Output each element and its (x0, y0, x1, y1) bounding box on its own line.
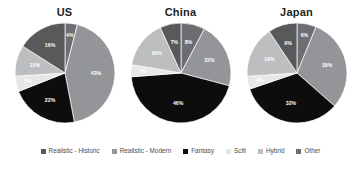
legend-label: Scifi (234, 147, 246, 155)
pie-slice-value-label: 9% (284, 40, 292, 46)
pie-canvas-japan: 6%29%32%4%16%9% (245, 21, 349, 125)
pie-slice-value-label: 16% (151, 50, 162, 56)
legend-swatch-icon (112, 149, 117, 154)
pie-svg-china: 8%22%46%4%16%7% (129, 21, 233, 125)
pie-slice-value-label: 22% (204, 57, 215, 63)
legend-swatch-icon (183, 149, 188, 154)
pie-chart-us: US 4%43%22%5%10%16% (8, 0, 121, 125)
legend-label: Fantasy (191, 147, 214, 155)
legend-swatch-icon (296, 149, 301, 154)
chart-title-china: China (165, 6, 197, 18)
pie-slice-value-label: 16% (44, 42, 55, 48)
legend-label: Hybrid (266, 147, 284, 155)
pie-slice-value-label: 8% (184, 39, 192, 45)
pie-slice-value-label: 32% (285, 100, 296, 106)
pie-svg-us: 4%43%22%5%10%16% (13, 21, 117, 125)
pie-slice-value-label: 7% (170, 39, 178, 45)
pie-slice-value-label: 22% (44, 97, 55, 103)
legend-label: Other (304, 147, 320, 155)
chart-title-japan: Japan (280, 6, 313, 18)
pie-slice-value-label: 46% (172, 100, 183, 106)
legend-item-hybrid[interactable]: Hybrid (258, 147, 284, 155)
legend-item-realistic-historic[interactable]: Realistic - Historic (41, 147, 100, 155)
chart-legend: Realistic - HistoricRealistic - ModernFa… (0, 140, 361, 162)
pie-slice-value-label: 29% (321, 62, 332, 68)
pie-svg-japan: 6%29%32%4%16%9% (245, 21, 349, 125)
pie-slice-value-label: 16% (264, 56, 275, 62)
pie-slice-value-label: 6% (300, 32, 308, 38)
figure-canvas: US 4%43%22%5%10%16% China 8%22%46%4%16%7… (0, 0, 361, 175)
pie-chart-china: China 8%22%46%4%16%7% (124, 0, 237, 125)
legend-swatch-icon (41, 149, 46, 154)
chart-title-us: US (57, 6, 73, 18)
pie-slices-japan (247, 23, 347, 123)
pie-chart-row: US 4%43%22%5%10%16% China 8%22%46%4%16%7… (0, 0, 361, 138)
legend-label: Realistic - Modern (120, 147, 172, 155)
pie-canvas-us: 4%43%22%5%10%16% (13, 21, 117, 125)
legend-item-realistic-modern[interactable]: Realistic - Modern (112, 147, 172, 155)
legend-swatch-icon (258, 149, 263, 154)
pie-slice-value-label: 5% (24, 78, 32, 84)
pie-slice-value-label: 10% (29, 62, 40, 68)
pie-slice-value-label: 4% (66, 32, 74, 38)
legend-label: Realistic - Historic (49, 147, 100, 155)
legend-swatch-icon (226, 149, 231, 154)
pie-slice-value-label: 4% (139, 68, 147, 74)
pie-slice-value-label: 43% (90, 70, 101, 76)
pie-canvas-china: 8%22%46%4%16%7% (129, 21, 233, 125)
pie-chart-japan: Japan 6%29%32%4%16%9% (240, 0, 353, 125)
pie-slice-value-label: 4% (255, 77, 263, 83)
legend-item-fantasy[interactable]: Fantasy (183, 147, 214, 155)
legend-item-other[interactable]: Other (296, 147, 320, 155)
legend-item-scifi[interactable]: Scifi (226, 147, 246, 155)
